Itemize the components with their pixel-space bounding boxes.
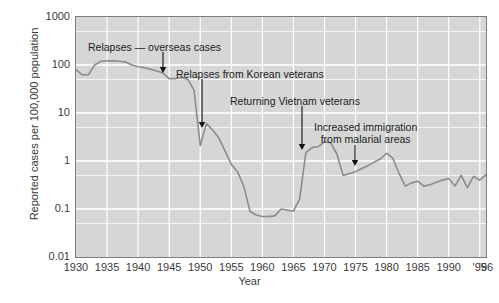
annotation-korean-veterans: Relapses from Korean veterans <box>176 68 324 80</box>
annotation-arrows <box>0 0 499 303</box>
annotation-vietnam-veterans: Returning Vietnam veterans <box>230 95 360 107</box>
annotation-line-2: from malarial areas <box>314 133 417 145</box>
annotation-line-1: Increased immigration <box>314 121 417 133</box>
annotation-relapses-overseas: Relapses — overseas cases <box>88 41 221 53</box>
annotation-malarial-immigration: Increased immigrationfrom malarial areas <box>314 121 417 145</box>
chart-figure: Reported cases per 100,000 population Ye… <box>0 0 499 303</box>
